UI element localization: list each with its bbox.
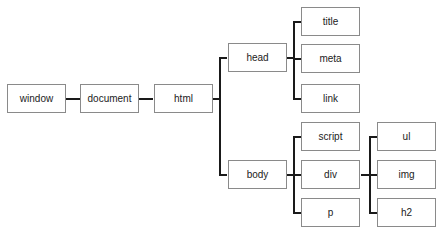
edge-head-link <box>293 98 301 100</box>
edge-div-h2 <box>369 212 377 214</box>
node-body: body <box>228 160 287 189</box>
node-script: script <box>301 122 360 151</box>
edge-body-script <box>293 136 301 138</box>
edge-html-trunk <box>219 57 221 176</box>
edge-head-title <box>293 21 301 23</box>
node-img: img <box>377 160 436 189</box>
edge-body-p <box>293 212 301 214</box>
node-window: window <box>7 84 66 113</box>
edge-div-img <box>369 174 377 176</box>
edge-window-document <box>66 98 80 100</box>
node-document: document <box>80 84 139 113</box>
node-link: link <box>301 84 360 113</box>
node-head: head <box>228 43 287 72</box>
edge-head-meta <box>293 58 301 60</box>
node-h2: h2 <box>377 198 436 227</box>
edge-document-html <box>139 98 153 100</box>
edge-html-head <box>219 57 227 59</box>
edge-html-body <box>219 174 227 176</box>
node-title: title <box>301 7 360 36</box>
edge-head-trunk <box>293 21 295 100</box>
node-meta: meta <box>301 44 360 73</box>
node-div: div <box>301 160 360 189</box>
node-ul: ul <box>377 122 436 151</box>
node-p: p <box>301 198 360 227</box>
edge-div-ul <box>369 136 377 138</box>
node-html: html <box>154 84 213 113</box>
edge-body-div <box>293 174 301 176</box>
